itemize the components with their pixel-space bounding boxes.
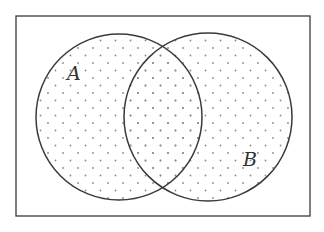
shaded-union-region — [36, 33, 292, 201]
set-a-label: A — [65, 62, 81, 84]
set-b-fill — [124, 33, 292, 201]
venn-diagram: A B — [0, 0, 324, 232]
set-b-label: B — [242, 148, 257, 170]
